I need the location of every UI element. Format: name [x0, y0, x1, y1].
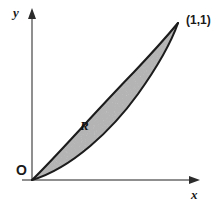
x-axis-label: x — [191, 188, 198, 201]
y-axis-label: y — [13, 6, 19, 19]
origin-label: O — [16, 163, 27, 177]
upper-boundary-curve — [32, 23, 178, 180]
y-axis — [28, 8, 36, 180]
region-label-r: R — [80, 119, 89, 132]
figure-canvas — [0, 0, 221, 210]
figure-region-between-curves: y x O (1,1) R — [0, 0, 221, 210]
x-axis — [22, 176, 200, 184]
corner-point-label: (1,1) — [186, 14, 211, 26]
